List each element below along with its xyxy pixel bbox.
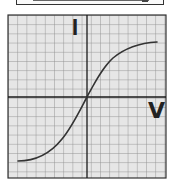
figure: I V: [0, 0, 172, 181]
x-axis-label: V: [148, 100, 165, 122]
y-axis-label: I: [72, 17, 79, 39]
graph-svg: [0, 0, 172, 181]
